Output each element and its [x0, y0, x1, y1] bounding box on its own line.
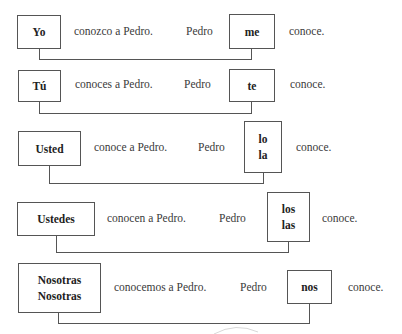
- scan-artifact-arc: [0, 0, 402, 334]
